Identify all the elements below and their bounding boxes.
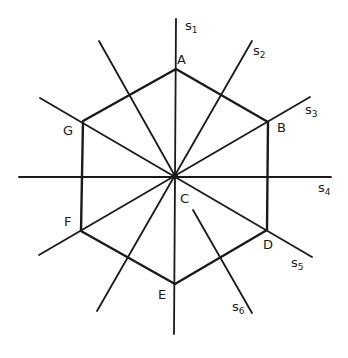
vertex-label-e: E: [158, 288, 166, 301]
axis-label-s1: s1: [185, 19, 198, 35]
diagram-lines: [0, 0, 348, 358]
vertex-label-d: D: [263, 238, 273, 251]
axis-s6-lower: [193, 210, 252, 313]
vertex-label-b: B: [277, 121, 286, 134]
vertex-label-a: A: [177, 53, 186, 66]
center-point: [172, 173, 178, 179]
axis-label-s5: s5: [291, 256, 304, 272]
axis-label-s6: s6: [232, 300, 245, 316]
axis-s6-upper: [99, 41, 175, 176]
axis-label-s2: s2: [253, 44, 266, 60]
vertex-label-f: F: [64, 215, 71, 228]
center-label-c: C: [180, 192, 189, 205]
axis-label-s3: s3: [305, 103, 318, 119]
vertex-label-g: G: [63, 124, 73, 137]
hexagon-symmetry-diagram: A B C D E F G s1 s2 s3 s4 s5 s6: [0, 0, 348, 358]
axis-label-s4: s4: [318, 181, 331, 197]
